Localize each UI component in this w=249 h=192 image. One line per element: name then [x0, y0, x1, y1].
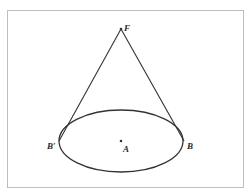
- label-B-prime: B′: [46, 141, 56, 151]
- point-F: [120, 28, 123, 31]
- label-B: B: [186, 141, 193, 151]
- label-A: A: [122, 144, 129, 154]
- label-F: F: [123, 23, 130, 33]
- point-A: [120, 140, 123, 143]
- cone-diagram: F A B B′: [0, 0, 249, 192]
